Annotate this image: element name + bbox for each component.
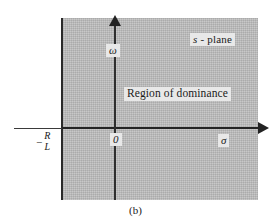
fraction-denominator: L — [44, 142, 50, 153]
r-over-l-fraction: R L — [44, 131, 50, 153]
s-plane-region-of-dominance-figure: s - plane Region of dominance ω σ 0 − R … — [0, 0, 271, 224]
sigma-axis-label: σ — [218, 134, 229, 147]
minus-sign: − — [36, 137, 42, 148]
region-of-dominance-label: Region of dominance — [124, 87, 231, 101]
sigma-axis-line-inside-region — [62, 127, 260, 129]
omega-axis-arrowhead-icon — [109, 15, 121, 26]
s-plane-suffix: - plane — [197, 33, 232, 45]
minus-r-over-l-label: − R L — [36, 131, 50, 153]
s-plane-label: s - plane — [190, 33, 235, 46]
dominance-boundary-line — [61, 18, 63, 200]
omega-axis-label: ω — [106, 44, 120, 57]
sigma-axis-arrowhead-icon — [258, 122, 269, 134]
origin-label: 0 — [110, 133, 122, 146]
figure-caption: (b) — [0, 205, 271, 216]
